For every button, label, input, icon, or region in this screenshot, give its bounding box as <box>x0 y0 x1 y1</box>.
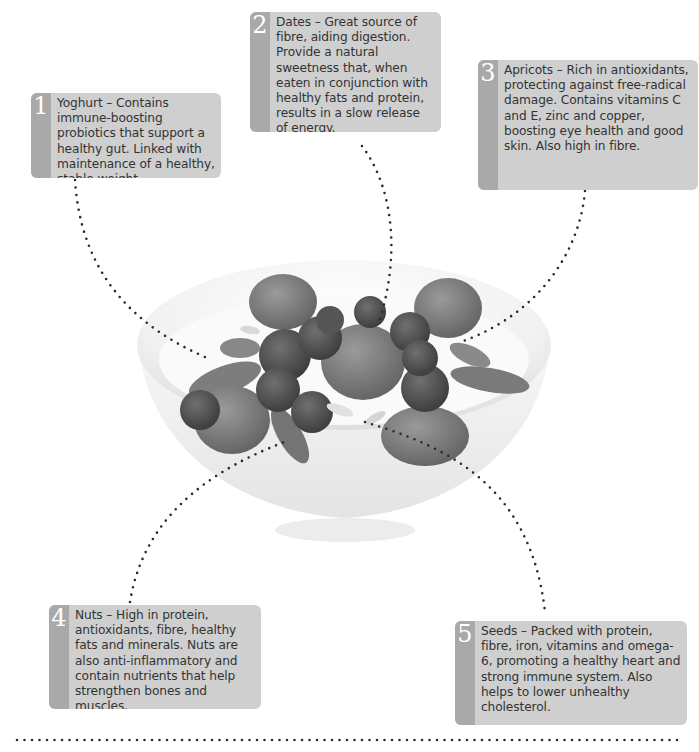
callout-number: 5 <box>455 621 475 649</box>
callout-number: 1 <box>31 93 51 121</box>
callout-text: Dates – Great source of fibre, aiding di… <box>270 12 441 132</box>
callout-text: Yoghurt – Contains immune-boosting probi… <box>51 93 221 178</box>
callout-text: Apricots – Rich in antioxidants, protect… <box>498 60 698 190</box>
callout-seeds: 5 Seeds – Packed with protein, fibre, ir… <box>455 621 687 725</box>
callout-text: Nuts – High in protein, antioxidants, fi… <box>69 605 261 709</box>
number-strip: 5 <box>455 621 475 725</box>
callout-dates: 2 Dates – Great source of fibre, aiding … <box>250 12 441 132</box>
connector-2 <box>362 146 391 325</box>
number-strip: 1 <box>31 93 51 178</box>
callout-nuts: 4 Nuts – High in protein, antioxidants, … <box>49 605 261 709</box>
connector-4 <box>130 440 290 602</box>
connector-1 <box>75 180 205 357</box>
connector-3 <box>458 191 585 343</box>
number-strip: 4 <box>49 605 69 709</box>
connector-5 <box>365 422 545 612</box>
number-strip: 2 <box>250 12 270 132</box>
callout-number: 2 <box>250 12 270 40</box>
callout-yoghurt: 1 Yoghurt – Contains immune-boosting pro… <box>31 93 221 178</box>
callout-apricots: 3 Apricots – Rich in antioxidants, prote… <box>478 60 698 190</box>
callout-number: 4 <box>49 605 69 633</box>
callout-text: Seeds – Packed with protein, fibre, iron… <box>475 621 687 725</box>
callout-number: 3 <box>478 60 498 88</box>
number-strip: 3 <box>478 60 498 190</box>
